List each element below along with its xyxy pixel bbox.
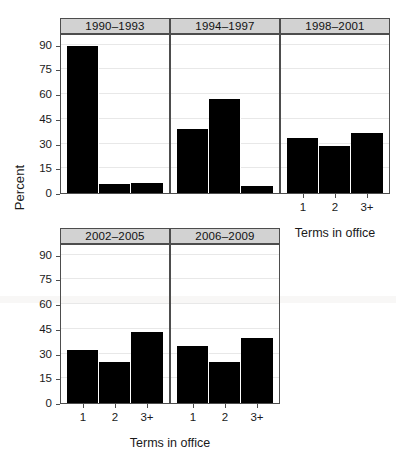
x-tick-mark xyxy=(303,194,304,198)
y-tick-mark xyxy=(56,256,60,257)
bar xyxy=(209,99,241,193)
plot-area xyxy=(170,34,280,194)
gridline xyxy=(61,328,169,329)
y-tick-mark xyxy=(56,305,60,306)
y-tick-mark xyxy=(56,145,60,146)
x-tick-mark xyxy=(257,404,258,408)
gridline xyxy=(171,68,279,69)
bar xyxy=(67,350,99,403)
y-tick-label: 75 xyxy=(26,64,52,75)
bar xyxy=(351,133,383,193)
facet-strip-label: 1990–1993 xyxy=(60,18,170,34)
y-tick-label: 30 xyxy=(26,139,52,150)
x-tick-label: 1 xyxy=(290,201,316,213)
caption-fragment xyxy=(30,410,370,420)
gridline xyxy=(281,93,389,94)
y-tick-mark xyxy=(56,280,60,281)
x-tick-mark xyxy=(115,404,116,408)
x-axis-title-bottom-row: Terms in office xyxy=(60,436,280,450)
gridline xyxy=(171,278,279,279)
gridline xyxy=(61,44,169,45)
x-tick-label: 3+ xyxy=(354,201,380,213)
y-axis-title: Percent xyxy=(12,133,27,243)
gridline xyxy=(171,93,279,94)
bar xyxy=(209,362,241,403)
y-tick-mark xyxy=(56,379,60,380)
x-tick-label: 2 xyxy=(322,201,348,213)
facet-strip-label: 1998–2001 xyxy=(280,18,390,34)
y-tick-label: 60 xyxy=(26,299,52,310)
y-tick-mark xyxy=(56,330,60,331)
gridline xyxy=(171,44,279,45)
gridline xyxy=(281,68,389,69)
y-tick-label: 90 xyxy=(26,40,52,51)
bar xyxy=(67,46,99,193)
x-tick-mark xyxy=(335,194,336,198)
x-tick-mark xyxy=(367,194,368,198)
gridline xyxy=(281,44,389,45)
facet-strip-label: 2002–2005 xyxy=(60,228,170,244)
bar xyxy=(99,184,131,193)
plot-area xyxy=(60,34,170,194)
x-axis-title-top-row: Terms in office xyxy=(280,226,390,240)
y-tick-label: 0 xyxy=(26,398,52,409)
bar xyxy=(241,186,273,193)
gridline xyxy=(171,328,279,329)
y-tick-label: 45 xyxy=(26,324,52,335)
gridline xyxy=(61,303,169,304)
y-tick-mark xyxy=(56,355,60,356)
plot-area xyxy=(60,244,170,404)
x-tick-mark xyxy=(83,404,84,408)
gridline xyxy=(281,118,389,119)
bar xyxy=(99,362,131,403)
y-tick-mark xyxy=(56,169,60,170)
gridline xyxy=(171,303,279,304)
y-tick-mark xyxy=(56,95,60,96)
bar xyxy=(319,146,351,193)
gridline xyxy=(61,254,169,255)
y-tick-mark xyxy=(56,404,60,405)
bar xyxy=(287,138,319,193)
y-tick-mark xyxy=(56,46,60,47)
x-tick-mark xyxy=(147,404,148,408)
plot-area xyxy=(170,244,280,404)
facet-strip-label: 2006–2009 xyxy=(170,228,280,244)
facet-strip-label: 1994–1997 xyxy=(170,18,280,34)
y-tick-label: 30 xyxy=(26,349,52,360)
plot-area xyxy=(280,34,390,194)
y-tick-label: 45 xyxy=(26,114,52,125)
gridline xyxy=(171,254,279,255)
bar xyxy=(177,346,209,403)
y-tick-label: 15 xyxy=(26,373,52,384)
bar xyxy=(131,183,163,193)
y-tick-label: 90 xyxy=(26,250,52,261)
y-tick-label: 75 xyxy=(26,274,52,285)
bar xyxy=(177,129,209,193)
y-tick-label: 15 xyxy=(26,163,52,174)
y-tick-mark xyxy=(56,120,60,121)
x-tick-mark xyxy=(225,404,226,408)
y-tick-mark xyxy=(56,194,60,195)
y-tick-label: 0 xyxy=(26,188,52,199)
x-tick-mark xyxy=(193,404,194,408)
bar xyxy=(131,332,163,403)
y-tick-label: 60 xyxy=(26,89,52,100)
y-tick-mark xyxy=(56,70,60,71)
gridline xyxy=(61,278,169,279)
bar xyxy=(241,338,273,403)
